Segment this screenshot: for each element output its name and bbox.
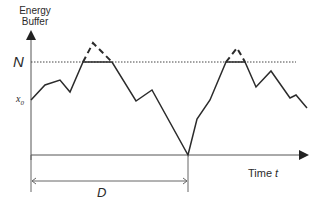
x-axis-label-text: Time	[248, 167, 272, 179]
initial-label-subscript: 0	[20, 99, 24, 107]
energy-curve	[31, 62, 307, 155]
threshold-label: N	[13, 53, 24, 70]
x-axis-variable: t	[275, 167, 278, 179]
y-axis-label-line2: Buffer	[19, 16, 51, 27]
y-axis-label: Energy Buffer	[19, 5, 51, 27]
x-axis-arrow-icon	[299, 150, 309, 160]
interval-label: D	[97, 185, 106, 200]
overflow-peak-2	[226, 48, 245, 62]
overflow-peak-1	[83, 43, 112, 62]
initial-value-label: x0	[16, 93, 24, 107]
y-axis-label-line1: Energy	[19, 5, 51, 16]
x-axis-label: Time t	[248, 167, 278, 179]
y-axis-arrow-icon	[26, 30, 36, 40]
